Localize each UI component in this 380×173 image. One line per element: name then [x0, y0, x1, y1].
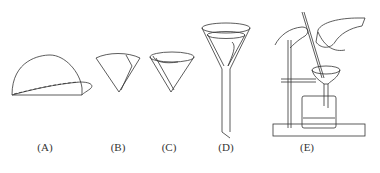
label-d: (D)	[218, 141, 233, 153]
label-c: (C)	[162, 141, 177, 153]
filtration-diagram: (A) (B) (C) (D) (E)	[0, 0, 380, 173]
panel-a-folded-paper	[12, 55, 92, 95]
label-b: (B)	[111, 141, 126, 153]
panel-d-funnel	[202, 23, 250, 138]
panel-e-filtration-setup	[273, 12, 365, 136]
panel-c-opened-cone	[150, 52, 194, 92]
label-e: (E)	[300, 141, 314, 153]
panel-b-quarter-fold	[96, 54, 140, 93]
label-a: (A)	[37, 141, 52, 153]
